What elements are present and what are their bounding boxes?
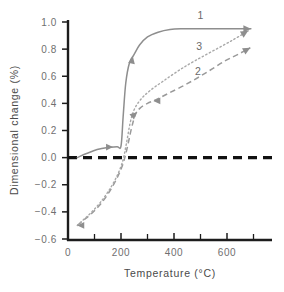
- y-tick-label: −0.6: [35, 234, 57, 245]
- y-axis-title: Dimensional change (%): [8, 65, 20, 195]
- x-tick-label: 0: [65, 247, 71, 258]
- x-tick-label: 400: [165, 247, 184, 258]
- dimensional-change-vs-temperature-chart: −0.6−0.4−0.20.00.20.40.60.81.0 020040060…: [0, 0, 284, 292]
- y-tick-label: 0.0: [41, 152, 57, 163]
- chart-figure: −0.6−0.4−0.20.00.20.40.60.81.0 020040060…: [0, 0, 284, 292]
- x-axis-title: Temperature (°C): [124, 267, 216, 279]
- y-tick-label: 0.4: [41, 98, 57, 109]
- curve-label-2: 2: [195, 65, 201, 77]
- curve-label-3: 3: [196, 40, 202, 52]
- x-tick-label: 200: [112, 247, 131, 258]
- y-tick-label: 0.6: [41, 71, 57, 82]
- y-tick-label: 0.2: [41, 125, 57, 136]
- curve-label-1: 1: [198, 9, 204, 21]
- x-tick-label: 600: [218, 247, 237, 258]
- y-tick-label: −0.4: [35, 206, 57, 217]
- y-tick-label: −0.2: [35, 179, 57, 190]
- y-tick-label: 1.0: [41, 17, 57, 28]
- y-tick-label: 0.8: [41, 44, 57, 55]
